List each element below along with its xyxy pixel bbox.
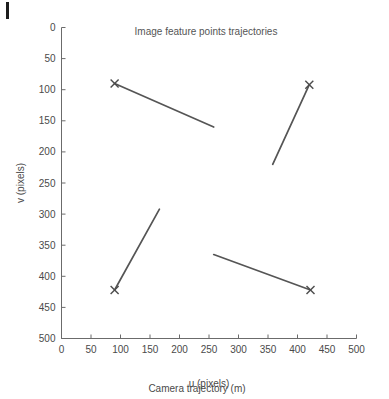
- y-tick-label: 200: [39, 146, 56, 157]
- x-tick-label: 350: [260, 344, 277, 355]
- y-axis-title: v (pixels): [15, 163, 26, 203]
- y-tick-label: 100: [39, 84, 56, 95]
- x-tick-label: 450: [319, 344, 336, 355]
- x-tick-label: 0: [59, 344, 65, 355]
- x-axis-ticks: 050100150200250300350400450500: [59, 335, 366, 355]
- chart-title: Image feature points trajectories: [135, 26, 278, 37]
- y-tick-label: 150: [39, 115, 56, 126]
- figure-caption-canvas: Camera trajectory (m): [0, 375, 389, 399]
- x-tick-label: 150: [142, 344, 159, 355]
- trajectory-marker-x: [111, 286, 119, 294]
- y-tick-label: 500: [39, 333, 56, 344]
- chart-title-group: Image feature points trajectories: [135, 26, 278, 37]
- y-tick-label: 250: [39, 178, 56, 189]
- x-tick-label: 100: [112, 344, 129, 355]
- x-tick-label: 300: [230, 344, 247, 355]
- trajectory-line: [214, 255, 311, 290]
- trajectory-series-group: [111, 79, 315, 294]
- trajectory-line: [273, 85, 310, 165]
- y-tick-label: 300: [39, 209, 56, 220]
- figure-container: Image feature points trajectories 050100…: [0, 0, 389, 399]
- trajectory-line: [115, 209, 160, 290]
- x-tick-label: 200: [171, 344, 188, 355]
- trajectory-line: [115, 83, 214, 127]
- trajectory-marker-x: [111, 79, 119, 87]
- figure-caption: Camera trajectory (m): [148, 383, 245, 394]
- y-tick-label: 400: [39, 271, 56, 282]
- trajectory-marker-x: [306, 286, 314, 294]
- y-tick-label: 450: [39, 302, 56, 313]
- y-axis-title-group: v (pixels): [15, 163, 26, 203]
- x-tick-label: 50: [85, 344, 97, 355]
- y-tick-label: 0: [50, 22, 56, 33]
- x-tick-label: 250: [201, 344, 218, 355]
- y-tick-label: 350: [39, 240, 56, 251]
- trajectory-marker-x: [305, 81, 313, 89]
- x-tick-label: 400: [289, 344, 306, 355]
- chart-canvas: Image feature points trajectories 050100…: [0, 0, 389, 399]
- x-tick-label: 500: [348, 344, 365, 355]
- y-tick-label: 50: [44, 53, 56, 64]
